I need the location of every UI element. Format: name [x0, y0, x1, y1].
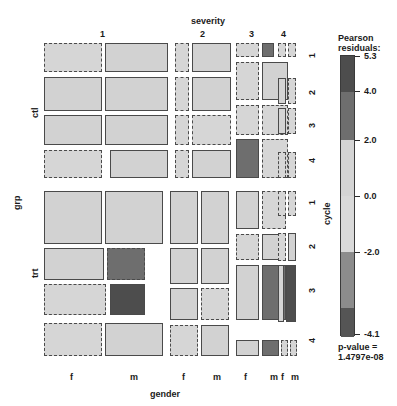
gender-tick-5: m: [270, 372, 278, 382]
legend-band: [341, 252, 354, 308]
mosaic-tile: [175, 150, 189, 178]
legend-tick-mark: [355, 56, 360, 57]
mosaic-tile: [288, 108, 296, 134]
severity-tick-4: 4: [281, 29, 286, 39]
mosaic-tile: [262, 340, 279, 356]
mosaic-tile: [105, 115, 168, 145]
mosaic-tile: [288, 152, 296, 178]
axis-label-cycle: cycle: [322, 202, 332, 225]
mosaic-tile: [201, 288, 229, 320]
mosaic-tile: [288, 191, 296, 216]
cycle-tick-3: 4: [307, 158, 317, 163]
mosaic-tile: [44, 191, 102, 244]
gender-tick-7: m: [291, 372, 299, 382]
mosaic-tile: [175, 43, 189, 72]
mosaic-tile: [201, 248, 229, 284]
mosaic-tile: [262, 43, 274, 57]
mosaic-tile: [288, 43, 296, 57]
cycle-tick-2: 3: [307, 123, 317, 128]
mosaic-tile: [201, 325, 229, 356]
legend-band: [341, 92, 354, 140]
gender-tick-1: m: [130, 372, 138, 382]
gender-tick-3: m: [213, 372, 221, 382]
mosaic-tile: [175, 77, 189, 111]
mosaic-tile: [278, 191, 286, 216]
mosaic-tile: [192, 115, 231, 145]
mosaic-tile: [170, 288, 198, 320]
mosaic-tile: [105, 323, 163, 356]
legend-band: [341, 308, 354, 337]
mosaic-tile: [278, 108, 286, 134]
mosaic-tile: [288, 233, 296, 261]
legend-tick-mark: [355, 334, 360, 335]
mosaic-tile: [278, 152, 286, 178]
mosaic-tile: [44, 115, 102, 145]
mosaic-tile: [201, 191, 229, 244]
axis-label-gender: gender: [150, 389, 180, 399]
mosaic-tile: [105, 77, 168, 111]
mosaic-tile: [236, 62, 259, 100]
legend-band: [341, 56, 354, 92]
legend-tick-mark: [355, 140, 360, 141]
mosaic-tile: [175, 115, 189, 145]
mosaic-tile: [236, 43, 259, 57]
mosaic-tile: [44, 284, 106, 315]
mosaic-tile: [288, 78, 296, 104]
mosaic-tile: [107, 248, 145, 280]
severity-tick-3: 3: [249, 29, 254, 39]
mosaic-tile: [281, 340, 288, 356]
gender-tick-2: f: [182, 372, 185, 382]
axis-label-severity: severity: [191, 16, 225, 26]
gender-tick-0: f: [70, 372, 73, 382]
mosaic-tile: [44, 323, 102, 356]
legend-tick-label: -2.0: [364, 247, 380, 257]
legend-tick-mark: [355, 196, 360, 197]
cycle-tick-6: 3: [307, 288, 317, 293]
cycle-tick-7: 4: [307, 338, 317, 343]
gender-tick-6: f: [281, 372, 284, 382]
mosaic-tile: [44, 248, 104, 280]
mosaic-tile: [170, 325, 198, 356]
legend-tick-label: -4.1: [364, 329, 380, 339]
severity-tick-2: 2: [200, 29, 205, 39]
legend-pvalue: p-value = 1.4797e-08: [338, 343, 384, 362]
legend-tick-mark: [355, 252, 360, 253]
mosaic-tile: [236, 191, 259, 229]
mosaic-tile: [170, 248, 198, 284]
mosaic-plot-figure: severity1234genderfmfmfmfmgrpctltrtcycle…: [0, 0, 397, 406]
mosaic-tile: [44, 43, 102, 72]
mosaic-tile: [110, 284, 145, 315]
legend-tick-label: 0.0: [364, 191, 377, 201]
mosaic-tile: [192, 43, 231, 72]
axis-label-grp: grp: [12, 196, 22, 211]
grp-tick-trt: trt: [30, 269, 40, 279]
mosaic-tile: [236, 340, 259, 356]
mosaic-tile: [192, 77, 231, 111]
mosaic-tile: [236, 265, 259, 320]
severity-tick-1: 1: [100, 29, 105, 39]
gender-tick-4: f: [244, 372, 247, 382]
mosaic-tile: [105, 43, 168, 72]
mosaic-tile: [236, 105, 259, 135]
mosaic-tile: [278, 233, 286, 261]
mosaic-tile: [192, 150, 231, 178]
mosaic-tile: [278, 78, 286, 104]
mosaic-tile: [105, 191, 163, 244]
legend-band: [341, 140, 354, 196]
cycle-tick-0: 1: [307, 53, 317, 58]
mosaic-tile: [44, 150, 102, 178]
mosaic-tile: [236, 139, 259, 178]
grp-tick-ctl: ctl: [30, 107, 40, 118]
cycle-tick-4: 1: [307, 200, 317, 205]
legend-tick-mark: [355, 91, 360, 92]
cycle-tick-1: 2: [307, 90, 317, 95]
mosaic-tile: [290, 340, 297, 356]
mosaic-tile: [44, 77, 102, 111]
legend-color-bar: [340, 55, 355, 336]
mosaic-tile: [110, 150, 168, 178]
mosaic-tile: [278, 265, 284, 322]
mosaic-tile: [236, 234, 259, 260]
legend-tick-label: 4.0: [364, 86, 377, 96]
mosaic-tile: [170, 191, 198, 244]
mosaic-tile: [286, 265, 296, 322]
